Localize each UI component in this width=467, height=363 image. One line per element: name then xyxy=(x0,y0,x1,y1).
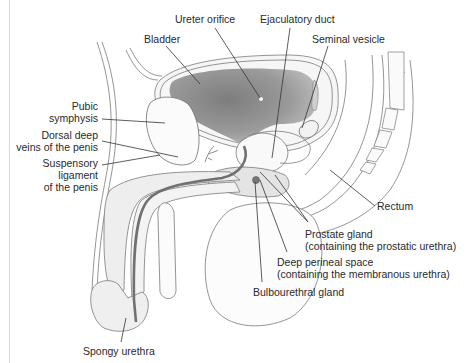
label-rectum: Rectum xyxy=(377,200,413,212)
label-suspensory-ligament: Suspensory ligament of the penis xyxy=(43,157,98,193)
label-pubic-symphysis: Pubic symphysis xyxy=(49,100,98,124)
label-ejaculatory-duct: Ejaculatory duct xyxy=(260,13,335,25)
label-dorsal-deep-veins: Dorsal deep veins of the penis xyxy=(16,129,98,153)
abdominal-wall xyxy=(92,42,162,290)
label-bladder: Bladder xyxy=(144,33,180,45)
bulbourethral-gland-dot xyxy=(253,177,260,184)
label-deep-perineal-space: Deep perineal space (containing the memb… xyxy=(277,256,450,280)
label-ureter-orifice: Ureter orifice xyxy=(175,13,235,25)
label-spongy-urethra: Spongy urethra xyxy=(83,345,155,357)
anatomy-diagram: Ureter orifice Ejaculatory duct Bladder … xyxy=(0,0,467,363)
dorsal-vein-branch xyxy=(205,146,218,162)
scrotum xyxy=(158,203,176,299)
label-bulbourethral-gland: Bulbourethral gland xyxy=(253,286,344,298)
label-seminal-vesicle: Seminal vesicle xyxy=(312,33,385,45)
label-prostate-gland: Prostate gland (containing the prostatic… xyxy=(305,228,456,252)
